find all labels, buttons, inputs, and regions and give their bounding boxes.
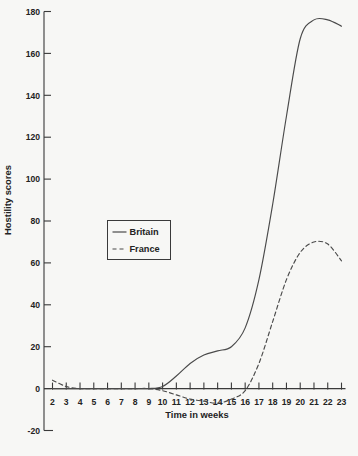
y-tick-label-0: 0 — [35, 384, 40, 394]
x-tick-label-14: 14 — [213, 397, 223, 407]
x-tick-label-9: 9 — [146, 397, 151, 407]
axes-group — [44, 12, 346, 431]
x-tick-label-19: 19 — [282, 397, 292, 407]
y-tick-label-120: 120 — [26, 132, 41, 142]
x-tick-label-17: 17 — [254, 397, 264, 407]
x-axis-ticks: 234567891011121314151617181920212223 — [50, 383, 346, 408]
x-tick-label-8: 8 — [133, 397, 138, 407]
x-tick-label-3: 3 — [64, 397, 69, 407]
x-tick-label-6: 6 — [105, 397, 110, 407]
x-axis-title: Time in weeks — [165, 409, 228, 420]
x-tick-label-11: 11 — [172, 397, 181, 407]
chart-page: -20020406080100120140160180 234567891011… — [0, 0, 358, 456]
hostility-scores-line-chart: -20020406080100120140160180 234567891011… — [0, 0, 358, 456]
x-tick-label-20: 20 — [295, 397, 305, 407]
x-tick-label-5: 5 — [91, 397, 96, 407]
y-tick-label-100: 100 — [26, 174, 41, 184]
y-tick-label-60: 60 — [30, 258, 40, 268]
x-tick-label-10: 10 — [158, 397, 168, 407]
y-tick-label--20: -20 — [28, 426, 41, 436]
axis-titles-group: Time in weeksHostility scores — [3, 165, 229, 420]
y-axis-title: Hostility scores — [3, 165, 14, 235]
y-tick-label-40: 40 — [30, 300, 40, 310]
y-axis-ticks: -20020406080100120140160180 — [26, 7, 51, 436]
chart-legend: BritainFrance — [108, 221, 171, 260]
x-tick-label-4: 4 — [78, 397, 83, 407]
y-tick-label-20: 20 — [30, 342, 40, 352]
legend-label-france: France — [130, 244, 160, 254]
x-tick-label-18: 18 — [268, 397, 278, 407]
y-tick-label-160: 160 — [26, 49, 41, 59]
y-tick-label-80: 80 — [30, 216, 40, 226]
series-line-britain — [53, 18, 342, 388]
x-tick-label-22: 22 — [323, 397, 333, 407]
y-tick-label-180: 180 — [26, 7, 41, 17]
x-tick-label-16: 16 — [240, 397, 250, 407]
x-tick-label-21: 21 — [309, 397, 319, 407]
x-tick-label-23: 23 — [337, 397, 347, 407]
series-line-france — [53, 241, 342, 403]
x-tick-label-2: 2 — [50, 397, 55, 407]
data-series-group — [53, 18, 342, 403]
y-tick-label-140: 140 — [26, 91, 41, 101]
x-tick-label-7: 7 — [119, 397, 124, 407]
legend-label-britain: Britain — [130, 227, 159, 237]
